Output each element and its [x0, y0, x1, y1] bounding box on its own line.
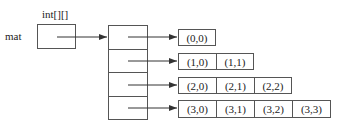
pointer-arrows	[0, 0, 342, 128]
